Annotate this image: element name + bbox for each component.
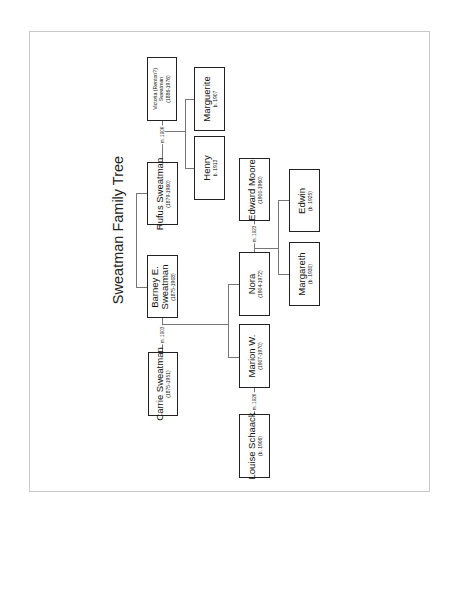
connector-to-margareth [278, 274, 289, 275]
person-marguerite: Marguerite b. 1907 [194, 67, 225, 131]
person-edwin: Edwin (b. 1925) [289, 169, 320, 232]
connector-to-edwin [278, 200, 289, 201]
connector-nora-children-v [278, 200, 279, 274]
connector-barney-children-h [162, 324, 228, 325]
person-marion: Marion W. (1907-1970) [239, 324, 270, 388]
marriage-label-rufus-victoria: m. 1906 [157, 125, 167, 145]
connector-siblings-v [136, 193, 137, 287]
connector-nora-children-h [254, 248, 278, 249]
person-rufus: Rufus Sweatman (1879-1960) [147, 162, 178, 225]
connector-barney-children-v [228, 284, 229, 357]
person-barney: Barney E. Sweatman (1875-1908) [147, 255, 178, 318]
person-victoria: Victoria (Renton?) Sweatman (1886-1976) [147, 57, 177, 121]
marriage-label-barney-carrie: m. 1903 [157, 325, 167, 345]
page-frame [29, 31, 430, 492]
diagram-title: Sweatman Family Tree [88, 220, 148, 240]
marriage-label-nora-edward: m. 1923 [249, 224, 259, 244]
marriage-label-marion-louise: m. 1926 [249, 392, 259, 412]
person-nora: Nora (1904-1972) [239, 252, 270, 316]
person-edward: Edward Moore (1900-1960) [239, 158, 270, 221]
connector-rufus-children-v [185, 99, 186, 169]
person-margareth: Margareth (b. 1930) [289, 242, 320, 306]
person-louise: Louise Schaack (b. 1906) [239, 414, 270, 478]
connector-to-marion [228, 357, 239, 358]
person-henry: Henry b. 1913 [194, 136, 225, 200]
person-carrie: Carrie Sweatman (1875-1951) [148, 352, 178, 416]
connector-to-nora [228, 284, 239, 285]
